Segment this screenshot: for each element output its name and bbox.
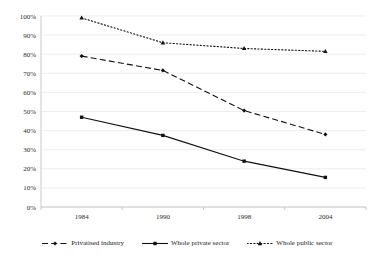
data-point-marker — [161, 134, 164, 137]
legend-swatch-icon — [42, 239, 68, 248]
data-point-marker — [80, 116, 83, 119]
data-point-marker — [242, 108, 246, 112]
legend-item-label: Privatised industry — [71, 240, 124, 247]
y-tick-label: 70% — [23, 70, 36, 78]
legend-item-label: Whole private sector — [171, 240, 229, 247]
x-tick-label: 2004 — [318, 213, 333, 221]
legend-item[interactable]: Whole public sector — [247, 239, 332, 248]
y-axis-tick-labels: 0%10%20%30%40%50%60%70%80%90%100% — [20, 13, 37, 212]
y-tick-label: 20% — [23, 165, 36, 173]
data-point-marker — [161, 68, 165, 72]
x-tick-label: 1984 — [75, 213, 90, 221]
y-tick-label: 30% — [23, 146, 36, 154]
series-line — [82, 56, 326, 134]
data-point-marker — [324, 176, 327, 179]
data-point-marker — [242, 159, 245, 162]
data-point-marker — [80, 54, 84, 58]
y-tick-label: 90% — [23, 32, 36, 40]
x-tick-label: 1990 — [156, 213, 171, 221]
gridlines — [41, 16, 366, 207]
data-point-marker — [53, 241, 57, 245]
y-tick-label: 60% — [23, 89, 36, 97]
data-series — [79, 15, 327, 52]
y-tick-label: 100% — [20, 13, 37, 21]
data-point-marker — [153, 241, 156, 244]
chart-legend: Privatised industryWhole private sectorW… — [0, 233, 375, 253]
legend-swatch-icon — [142, 239, 168, 248]
data-series — [80, 116, 327, 180]
legend-swatch-icon — [247, 239, 273, 248]
data-point-marker — [323, 132, 327, 136]
y-tick-label: 50% — [23, 108, 36, 116]
series-line — [82, 117, 326, 177]
legend-item[interactable]: Whole private sector — [142, 239, 229, 248]
line-chart: 0%10%20%30%40%50%60%70%80%90%100% 198419… — [0, 0, 375, 261]
y-tick-label: 0% — [27, 204, 37, 212]
x-tick-label: 1998 — [237, 213, 252, 221]
legend-item[interactable]: Privatised industry — [42, 239, 124, 248]
series-line — [82, 18, 326, 51]
y-tick-label: 10% — [23, 184, 36, 192]
data-series — [80, 54, 328, 137]
y-tick-label: 80% — [23, 51, 36, 59]
plot-area: 0%10%20%30%40%50%60%70%80%90%100% 198419… — [0, 0, 375, 232]
x-axis-tick-labels: 1984199019982004 — [75, 213, 333, 221]
chart-canvas: 0%10%20%30%40%50%60%70%80%90%100% 198419… — [0, 0, 375, 232]
data-series-layer — [79, 15, 327, 179]
y-tick-label: 40% — [23, 127, 36, 135]
legend-item-label: Whole public sector — [276, 240, 332, 247]
